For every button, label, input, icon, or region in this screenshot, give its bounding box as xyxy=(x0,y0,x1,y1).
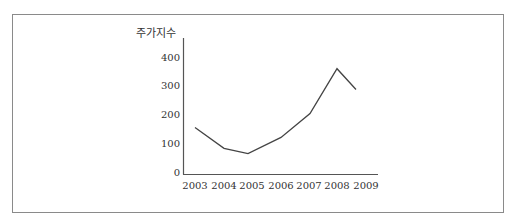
chart-plot xyxy=(0,0,517,215)
data-line xyxy=(195,69,356,154)
